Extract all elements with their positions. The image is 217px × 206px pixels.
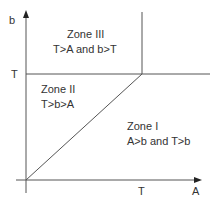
x-axis-label: A [192, 185, 200, 197]
zone-ii-name: Zone II [41, 83, 75, 95]
y-axis-arrow-icon [23, 10, 29, 18]
y-tick-label-T: T [11, 68, 18, 80]
zone-iii-condition: T>A and b>T [53, 43, 117, 55]
x-axis-arrow-icon [194, 177, 202, 183]
zone-iii-name: Zone III [67, 28, 104, 40]
x-tick-label-T: T [138, 185, 145, 197]
zone-ii-condition: T>b>A [41, 98, 75, 110]
zone-diagram: b T T A Zone III T>A and b>T Zone II T>b… [0, 0, 217, 206]
zone-i-condition: A>b and T>b [127, 135, 190, 147]
y-axis-label: b [9, 14, 15, 26]
zone-i-name: Zone I [127, 120, 158, 132]
